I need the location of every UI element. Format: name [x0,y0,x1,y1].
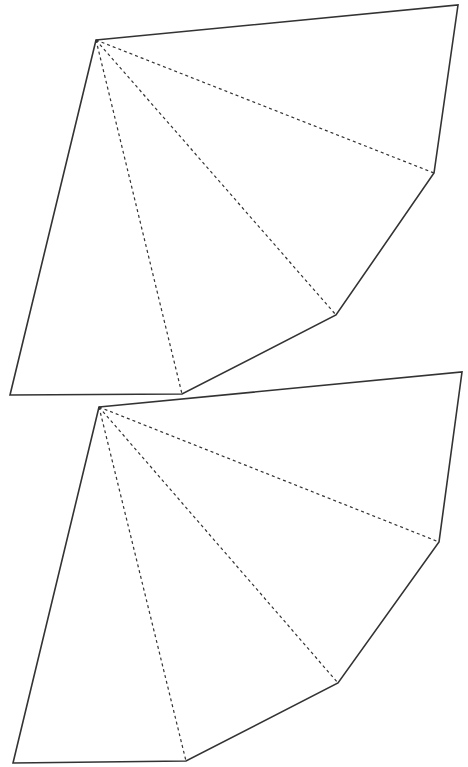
upper-net-outline [10,5,458,395]
fold-line [96,40,182,394]
lower-net [13,372,462,763]
lower-net-fold-lines [99,407,439,761]
fold-line [96,40,434,173]
upper-net [10,5,458,395]
fold-line [99,407,338,683]
fold-line [99,407,439,542]
fold-line [99,407,186,761]
diagram-canvas [0,0,468,767]
fold-line [96,40,336,315]
upper-net-fold-lines [96,40,434,394]
